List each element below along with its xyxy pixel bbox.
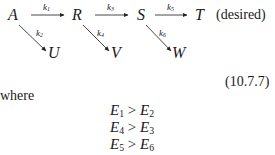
- rate-constant-k4: k4: [97, 29, 104, 38]
- species-r: R: [72, 7, 82, 23]
- species-v: V: [111, 45, 121, 61]
- rate-constant-k6: k6: [159, 29, 166, 38]
- species-s: S: [137, 7, 145, 23]
- rate-constant-k1: k1: [43, 3, 50, 12]
- rate-constant-k2: k2: [36, 29, 43, 38]
- species-u: U: [48, 45, 60, 61]
- rate-constant-k5: k5: [167, 3, 174, 12]
- arrow-r-to-v: [83, 25, 109, 51]
- species-t: T: [195, 7, 204, 23]
- species-a: A: [8, 7, 18, 23]
- where-label: where: [0, 89, 34, 103]
- inequality-3: E5 > E6: [110, 137, 154, 152]
- inequality-1: E1 > E2: [110, 103, 154, 118]
- inequality-2: E4 > E3: [110, 120, 154, 135]
- equation-number: (10.7.7): [225, 75, 269, 89]
- species-w: W: [172, 45, 185, 61]
- desired-note: (desired): [216, 8, 266, 22]
- rate-constant-k3: k3: [107, 3, 114, 12]
